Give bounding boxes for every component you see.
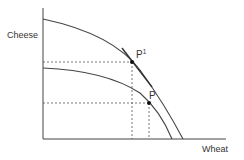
p-guides bbox=[43, 103, 149, 139]
outer-ppf-curve bbox=[43, 19, 183, 139]
ppf-diagram: P1 P Cheese Wheat bbox=[0, 0, 244, 160]
inner-ppf-curve bbox=[43, 68, 172, 139]
axes bbox=[43, 8, 226, 139]
point-p1-marker bbox=[130, 60, 134, 64]
point-p-marker bbox=[147, 101, 151, 105]
x-axis-label: Wheat bbox=[202, 144, 229, 154]
y-axis-label: Cheese bbox=[7, 30, 38, 40]
point-p-label: P bbox=[149, 90, 156, 101]
point-p1-label: P1 bbox=[136, 48, 147, 60]
